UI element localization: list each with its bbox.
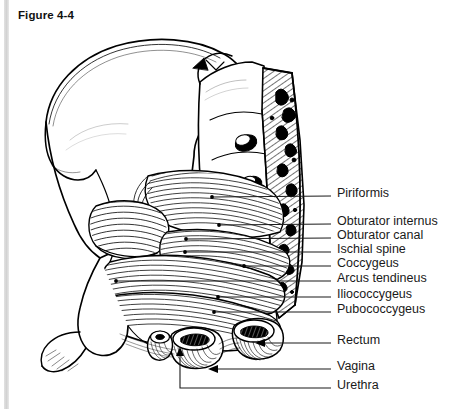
label-vagina: Vagina [337, 360, 375, 373]
leader-dot-ischial-spine [183, 250, 187, 254]
leader-dot-piriformis [210, 195, 214, 199]
label-arcus-tendineus: Arcus tendineus [337, 272, 427, 285]
vagina-stump [170, 327, 223, 368]
label-obturator-canal: Obturator canal [337, 229, 423, 242]
label-iliococcygeus: Iliococcygeus [337, 288, 412, 301]
label-piriformis: Piriformis [337, 187, 389, 200]
leader-dot-iliococcygeus [216, 295, 220, 299]
label-ischial-spine: Ischial spine [337, 243, 406, 256]
label-coccygeus: Coccygeus [337, 257, 399, 270]
leader-dot-coccygeus [242, 264, 246, 268]
leader-dot-pubococcygeus [212, 310, 216, 314]
label-obturator-internus: Obturator internus [337, 215, 438, 228]
urethra-stump [148, 331, 173, 360]
leader-dot-obturator-canal [184, 237, 188, 241]
leader-dot-obturator-internus [217, 223, 221, 227]
label-rectum: Rectum [337, 334, 380, 347]
rectum-stump [232, 319, 283, 360]
leader-dot-arcus-tendineus [114, 279, 118, 283]
figure-page: Figure 4-4 [0, 0, 457, 418]
label-urethra: Urethra [337, 379, 379, 392]
label-pubococcygeus: Pubococcygeus [337, 303, 425, 316]
pelvic-floor-anatomy-illustration [0, 0, 457, 418]
